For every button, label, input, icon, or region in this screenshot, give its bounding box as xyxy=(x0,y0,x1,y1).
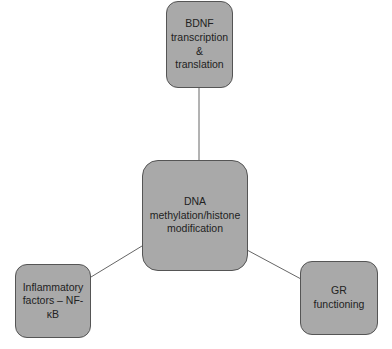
node-inflammatory-factors: Inflammatory factors – NF-κB xyxy=(15,264,91,338)
diagram-canvas: BDNF transcription & translation DNA met… xyxy=(0,0,392,349)
node-dna-methylation-label: DNA methylation/histone modification xyxy=(150,195,240,236)
node-gr-functioning: GR functioning xyxy=(300,261,378,335)
node-bdnf: BDNF transcription & translation xyxy=(166,1,233,88)
edge-center-left xyxy=(91,246,142,277)
node-dna-methylation: DNA methylation/histone modification xyxy=(142,160,248,271)
node-gr-functioning-label: GR functioning xyxy=(314,284,365,311)
edge-center-right xyxy=(247,250,301,279)
node-inflammatory-factors-label: Inflammatory factors – NF-κB xyxy=(18,281,88,322)
node-bdnf-label: BDNF transcription & translation xyxy=(171,17,228,72)
